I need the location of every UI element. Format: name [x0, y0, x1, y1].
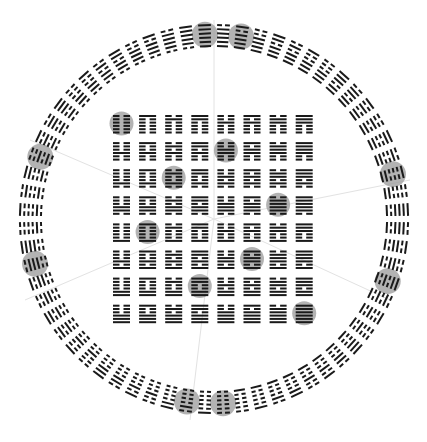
hexagram-cell: [217, 305, 234, 324]
hexagram-cell: [139, 196, 156, 215]
hexagram-cell: [191, 251, 208, 270]
hexagram-cell: [113, 305, 130, 324]
ring-hexagram: [250, 384, 268, 409]
ring-hexagram: [43, 302, 69, 325]
hexagram-cell: [139, 278, 156, 297]
ring-highlight: [174, 389, 200, 415]
hexagram-cell: [270, 251, 287, 270]
hexagram-cell: [139, 142, 156, 161]
ring-hexagram: [216, 24, 230, 48]
hexagram-cell: [244, 115, 261, 134]
hexagram-cell: [191, 115, 208, 134]
ring-hexagram: [142, 33, 162, 59]
hexagram-cell: [165, 278, 182, 297]
hexagram-cell: [244, 278, 261, 297]
ring-hexagram: [125, 40, 146, 66]
hexagram-cell: [296, 223, 313, 242]
ring-hexagram: [108, 363, 131, 389]
hexagram-cell: [165, 251, 182, 270]
hexagram-cell: [113, 278, 130, 297]
hexagram-cell: [113, 223, 130, 242]
hexagram-cell: [296, 169, 313, 188]
ring-hexagram: [385, 221, 409, 235]
hexagram-cell: [270, 223, 287, 242]
hexagram-cell: [217, 278, 234, 297]
ring-hexagram: [266, 379, 286, 405]
hexagram-cell: [270, 278, 287, 297]
ring-highlight: [210, 390, 236, 416]
hexagram-cell: [270, 305, 287, 324]
ring-hexagram: [282, 372, 303, 398]
hexagram-cell: [191, 305, 208, 324]
hexagram-cell: [113, 196, 130, 215]
hexagram-cell: [113, 142, 130, 161]
ring-hexagram: [19, 203, 43, 217]
hexagram-cell: [217, 223, 234, 242]
radial-guide-lines: [25, 20, 410, 420]
hexagram-cell: [139, 115, 156, 134]
hexagram-cell: [165, 115, 182, 134]
ring-hexagram: [297, 363, 320, 389]
ring-hexagram: [43, 113, 69, 136]
hexagram-cell: [139, 251, 156, 270]
ring-hexagram: [125, 372, 146, 398]
hexagram-cell: [217, 251, 234, 270]
ring-hexagram: [266, 33, 286, 59]
hexagram-cell: [296, 115, 313, 134]
hexagram-cell: [113, 251, 130, 270]
ring-hexagram: [20, 184, 45, 200]
ring-hexagram: [358, 302, 384, 325]
hexagram-cell: [217, 169, 234, 188]
diagram-canvas: [0, 0, 427, 442]
hexagram-cell: [165, 305, 182, 324]
hexagram-cell: [270, 142, 287, 161]
ring-hexagram: [358, 113, 384, 136]
ring-hexagram: [297, 48, 320, 74]
hexagram-cell: [244, 169, 261, 188]
hexagram-cell: [296, 251, 313, 270]
hexagram-cell: [191, 142, 208, 161]
ring-hexagram: [282, 40, 303, 66]
hexagram-cell: [296, 278, 313, 297]
hexagram-cell: [191, 169, 208, 188]
hexagram-cell: [139, 169, 156, 188]
hexagram-cell: [113, 169, 130, 188]
hexagram-diagram: Fu Xi arrangement of the 64 hexagrams (c…: [0, 0, 427, 442]
hexagram-cell: [244, 305, 261, 324]
ring-hexagram: [160, 28, 178, 53]
hexagram-cell: [139, 305, 156, 324]
ring-hexagram: [142, 379, 162, 405]
ring-hexagram: [19, 221, 43, 235]
hexagram-cell: [244, 142, 261, 161]
hexagram-cell: [165, 142, 182, 161]
hexagram-cell: [191, 223, 208, 242]
ring-hexagram: [108, 48, 131, 74]
hexagram-cell: [244, 196, 261, 215]
hexagram-cell: [296, 196, 313, 215]
ring-hexagram: [367, 130, 393, 151]
hexagram-cell: [191, 196, 208, 215]
hexagram-cell: [270, 169, 287, 188]
ring-hexagram: [383, 238, 408, 254]
hexagram-cell: [296, 142, 313, 161]
ring-hexagram: [198, 390, 212, 414]
hexagram-cell: [217, 115, 234, 134]
hexagram-cell: [270, 115, 287, 134]
ring-hexagram: [385, 203, 409, 217]
hexagram-cell: [217, 196, 234, 215]
